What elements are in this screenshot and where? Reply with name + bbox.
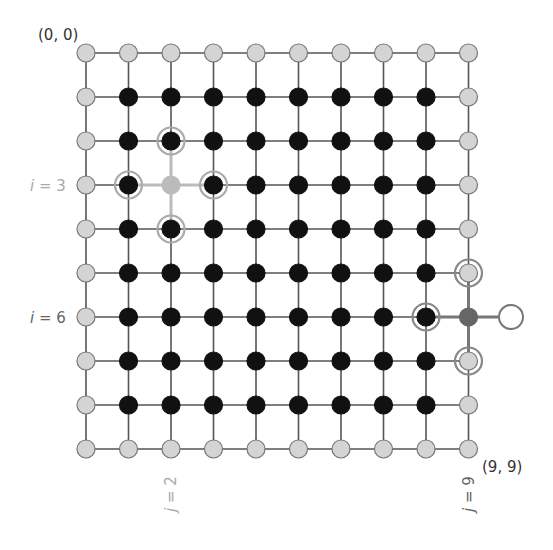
interior-node <box>417 220 435 238</box>
boundary-node <box>332 440 350 458</box>
interior-node <box>120 176 138 194</box>
grid-canvas: (0, 0)(9, 9)i = 3i = 6j = 2j = 9 <box>0 0 553 550</box>
interior-node <box>205 264 223 282</box>
boundary-node <box>417 440 435 458</box>
interior-node <box>162 132 180 150</box>
interior-node <box>247 88 265 106</box>
interior-node <box>332 308 350 326</box>
boundary-node <box>460 220 478 238</box>
boundary-node <box>375 440 393 458</box>
interior-node <box>120 220 138 238</box>
boundary-node <box>162 440 180 458</box>
boundary-node <box>120 440 138 458</box>
interior-node <box>162 88 180 106</box>
boundary-node <box>77 308 95 326</box>
interior-node <box>120 132 138 150</box>
boundary-node <box>290 44 308 62</box>
interior-node <box>247 396 265 414</box>
interior-node <box>417 308 435 326</box>
interior-node <box>332 352 350 370</box>
interior-node <box>290 220 308 238</box>
boundary-node <box>120 44 138 62</box>
interior-node <box>290 396 308 414</box>
interior-node <box>290 88 308 106</box>
row-label-i6: i = 6 <box>30 309 66 327</box>
interior-node <box>417 88 435 106</box>
interior-node <box>120 352 138 370</box>
interior-node <box>375 220 393 238</box>
interior-node <box>247 352 265 370</box>
interior-node <box>205 396 223 414</box>
interior-node <box>120 308 138 326</box>
boundary-node <box>460 44 478 62</box>
col-label-j9: j = 9 <box>460 476 478 514</box>
interior-node <box>290 264 308 282</box>
boundary-node <box>77 44 95 62</box>
boundary-node <box>77 440 95 458</box>
interior-node <box>375 308 393 326</box>
boundary-node <box>375 44 393 62</box>
interior-node <box>375 264 393 282</box>
corner-label-top-left: (0, 0) <box>38 26 78 44</box>
interior-node <box>332 176 350 194</box>
boundary-node <box>460 88 478 106</box>
interior-node <box>205 132 223 150</box>
interior-node <box>120 264 138 282</box>
interior-node <box>332 88 350 106</box>
corner-label-bottom-right: (9, 9) <box>482 458 522 476</box>
interior-node <box>417 132 435 150</box>
interior-node <box>417 176 435 194</box>
interior-node <box>205 352 223 370</box>
interior-node <box>247 308 265 326</box>
interior-node <box>247 264 265 282</box>
interior-node <box>205 220 223 238</box>
interior-node <box>247 132 265 150</box>
interior-node <box>205 88 223 106</box>
interior-node <box>332 396 350 414</box>
interior-node <box>375 88 393 106</box>
interior-node <box>247 220 265 238</box>
stencil-grid-diagram: (0, 0)(9, 9)i = 3i = 6j = 2j = 9 <box>0 0 553 550</box>
interior-node <box>332 132 350 150</box>
interior-node <box>375 352 393 370</box>
interior-node <box>205 308 223 326</box>
boundary-node <box>460 264 478 282</box>
interior-node <box>120 88 138 106</box>
boundary-node <box>77 264 95 282</box>
interior-node <box>162 264 180 282</box>
boundary-node <box>460 352 478 370</box>
interior-node <box>247 176 265 194</box>
boundary-node <box>247 440 265 458</box>
interior-node <box>162 396 180 414</box>
interior-node <box>205 176 223 194</box>
interior-node <box>375 132 393 150</box>
interior-node <box>417 352 435 370</box>
boundary-node <box>205 44 223 62</box>
boundary-node <box>417 44 435 62</box>
interior-node <box>290 352 308 370</box>
boundary-node <box>162 44 180 62</box>
boundary-node <box>205 440 223 458</box>
interior-node <box>120 396 138 414</box>
stencil-center-node <box>162 176 180 194</box>
boundary-node <box>460 396 478 414</box>
interior-node <box>290 308 308 326</box>
boundary-node <box>460 132 478 150</box>
boundary-node <box>77 176 95 194</box>
row-label-i3: i = 3 <box>30 177 66 195</box>
boundary-node <box>247 44 265 62</box>
boundary-node <box>460 176 478 194</box>
boundary-node <box>460 440 478 458</box>
interior-node <box>290 176 308 194</box>
interior-node <box>162 308 180 326</box>
boundary-node <box>290 440 308 458</box>
boundary-node <box>332 44 350 62</box>
boundary-node <box>77 132 95 150</box>
boundary-node <box>77 220 95 238</box>
interior-node <box>417 396 435 414</box>
interior-node <box>290 132 308 150</box>
boundary-node <box>77 396 95 414</box>
boundary-node <box>77 352 95 370</box>
interior-node <box>417 264 435 282</box>
interior-node <box>162 352 180 370</box>
